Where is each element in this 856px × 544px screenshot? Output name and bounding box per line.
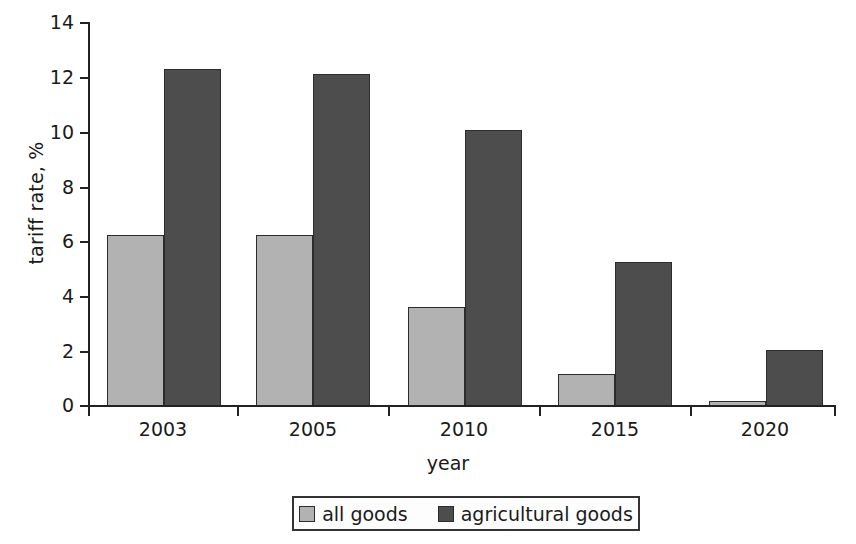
y-tick-label-8: 8 (40, 178, 74, 197)
bar-all-goods-2003 (107, 235, 164, 406)
y-tick-14 (80, 22, 89, 24)
y-tick-4 (80, 296, 89, 298)
x-tick-label-2003: 2003 (139, 418, 187, 440)
bar-agricultural-goods-2020 (766, 350, 823, 406)
x-axis-title: year (0, 452, 856, 474)
x-tick-end (834, 407, 836, 416)
y-tick-label-14: 14 (40, 13, 74, 32)
x-tick-sep-3 (539, 407, 541, 416)
y-tick-label-12: 12 (40, 68, 74, 87)
bar-agricultural-goods-2015 (615, 262, 672, 406)
x-tick-sep-4 (690, 407, 692, 416)
bar-agricultural-goods-2003 (164, 69, 221, 406)
y-tick-2 (80, 351, 89, 353)
legend-item-all-goods: all goods (299, 503, 408, 525)
y-tick-label-0: 0 (40, 396, 74, 415)
x-tick-label-2015: 2015 (591, 418, 639, 440)
y-tick-label-2: 2 (40, 342, 74, 361)
y-tick-label-10: 10 (40, 123, 74, 142)
y-axis-line (88, 22, 90, 407)
legend-swatch-agricultural-goods (438, 506, 454, 522)
y-tick-label-6: 6 (40, 232, 74, 251)
legend-swatch-all-goods (299, 506, 315, 522)
x-axis-title-text: year (427, 452, 469, 474)
x-tick-start (88, 407, 90, 416)
legend-label-agricultural-goods: agricultural goods (461, 503, 633, 525)
y-tick-10 (80, 132, 89, 134)
x-axis-line (88, 405, 836, 407)
bar-all-goods-2010 (408, 307, 465, 406)
bar-chart: tariff rate, % 14 12 10 8 6 4 2 0 2003 2… (0, 0, 856, 544)
legend-item-agricultural-goods: agricultural goods (438, 503, 633, 525)
chart-legend: all goods agricultural goods (292, 496, 640, 531)
bar-all-goods-2015 (558, 374, 615, 406)
bar-all-goods-2005 (256, 235, 313, 406)
y-tick-12 (80, 77, 89, 79)
y-tick-8 (80, 187, 89, 189)
x-tick-label-2010: 2010 (440, 418, 488, 440)
y-tick-label-4: 4 (40, 287, 74, 306)
bar-agricultural-goods-2005 (313, 74, 370, 406)
y-tick-6 (80, 241, 89, 243)
legend-label-all-goods: all goods (322, 503, 408, 525)
x-tick-label-2005: 2005 (289, 418, 337, 440)
x-tick-sep-2 (388, 407, 390, 416)
bar-agricultural-goods-2010 (465, 130, 522, 406)
x-tick-sep-1 (237, 407, 239, 416)
x-tick-label-2020: 2020 (741, 418, 789, 440)
